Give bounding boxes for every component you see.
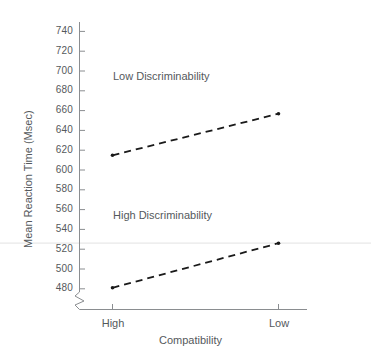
- x-tick-label-high: High: [96, 317, 130, 329]
- annotation-low-discriminability: Low Discriminability: [113, 70, 210, 82]
- y-axis-ticks: [80, 31, 86, 288]
- x-axis-ticks: [113, 304, 279, 310]
- y-axis-title: Mean Reaction Time (Msec): [22, 110, 34, 248]
- y-tick-label-640: 640: [41, 124, 73, 135]
- y-tick-label-580: 580: [41, 183, 73, 194]
- y-tick-label-500: 500: [41, 263, 73, 274]
- annotation-high-discriminability: High Discriminability: [113, 209, 212, 221]
- y-tick-label-480: 480: [41, 282, 73, 293]
- y-axis-break-icon: [75, 292, 84, 310]
- y-tick-label-720: 720: [41, 45, 73, 56]
- y-tick-label-600: 600: [41, 164, 73, 175]
- y-tick-label-520: 520: [41, 243, 73, 254]
- y-tick-label-560: 560: [41, 203, 73, 214]
- y-tick-label-740: 740: [41, 25, 73, 36]
- y-tick-label-540: 540: [41, 223, 73, 234]
- y-tick-label-620: 620: [41, 144, 73, 155]
- y-tick-label-660: 660: [41, 104, 73, 115]
- x-tick-label-low: Low: [262, 317, 296, 329]
- y-tick-label-700: 700: [41, 65, 73, 76]
- series-low-discriminability: [111, 112, 281, 157]
- y-tick-label-680: 680: [41, 84, 73, 95]
- series-high-discriminability: [111, 241, 281, 289]
- reaction-time-line-chart: 740 720 700 680 660 640 620 600 580 560 …: [0, 0, 371, 354]
- x-axis-title: Compatibility: [159, 334, 222, 346]
